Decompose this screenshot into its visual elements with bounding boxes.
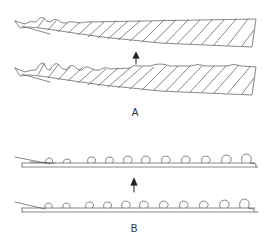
strip-b-lower-hooks — [45, 199, 254, 212]
blade-a-upper — [15, 18, 256, 48]
strip-b-lower — [15, 199, 258, 212]
strip-b-upper-hooks — [45, 154, 256, 167]
diagram-figure — [0, 0, 268, 242]
arrow-up-icon-a — [133, 52, 139, 64]
panel-label-b: B — [131, 223, 138, 234]
arrow-up-icon-b — [131, 178, 137, 192]
panel-label-a: A — [132, 107, 139, 118]
strip-b-upper — [15, 154, 258, 167]
blade-a-lower — [15, 63, 256, 95]
